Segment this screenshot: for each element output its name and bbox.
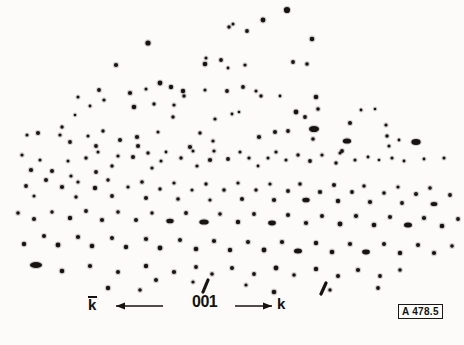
diffraction-spot	[443, 157, 446, 160]
diffraction-spot	[97, 88, 101, 92]
diffraction-spot	[238, 111, 241, 114]
diffraction-spot	[302, 198, 309, 203]
diffraction-spot	[267, 157, 270, 160]
diffraction-spot	[106, 286, 110, 290]
diffraction-spot	[292, 273, 296, 277]
diffraction-spot	[56, 243, 61, 248]
diffraction-spot	[255, 90, 258, 93]
diffraction-pattern-canvas	[0, 0, 464, 345]
diffraction-spot	[252, 212, 256, 216]
diffraction-spot	[336, 199, 340, 203]
diffraction-spot	[33, 195, 36, 198]
diffraction-spot	[348, 121, 352, 125]
diffraction-spot	[116, 210, 120, 214]
diffraction-spot	[165, 151, 168, 154]
diffraction-spot	[291, 60, 295, 64]
diffraction-spot	[36, 131, 40, 135]
diffraction-spot	[192, 150, 195, 153]
diffraction-spot	[69, 174, 72, 177]
diffraction-spot	[422, 216, 426, 220]
diffraction-spot	[320, 153, 323, 156]
diffraction-spot	[374, 108, 377, 111]
diffraction-spot	[398, 251, 402, 255]
diffraction-spot	[268, 182, 271, 185]
axis-label-k-negative-text: k	[88, 299, 97, 311]
diffraction-spot	[241, 85, 245, 89]
diffraction-spot	[310, 37, 315, 42]
diffraction-spot	[204, 182, 207, 185]
right-arrow	[235, 302, 272, 309]
diffraction-spot	[261, 18, 266, 23]
diffraction-spot	[212, 239, 216, 243]
diffraction-spot	[303, 115, 307, 119]
diffraction-spot	[376, 286, 380, 290]
diffraction-spot	[160, 160, 163, 163]
diffraction-spot	[314, 241, 318, 245]
diffraction-spot	[67, 160, 70, 163]
diffraction-spot	[232, 23, 235, 26]
diffraction-spot	[286, 189, 290, 193]
diffraction-spot	[272, 198, 276, 202]
diffraction-spot	[228, 248, 232, 252]
diffraction-spot	[423, 158, 426, 161]
diffraction-spot	[384, 123, 387, 126]
diffraction-spot	[398, 268, 402, 272]
diffraction-spot	[382, 242, 386, 246]
diffraction-spot	[378, 274, 382, 278]
diffraction-spot	[188, 145, 192, 149]
diffraction-spot	[145, 40, 150, 45]
diffraction-spot	[391, 157, 394, 160]
diffraction-spot	[285, 159, 288, 162]
diffraction-spot	[348, 242, 352, 246]
diffraction-spot	[239, 151, 242, 154]
diffraction-spot	[32, 217, 36, 221]
diffraction-spot	[118, 138, 122, 142]
diffraction-spot	[144, 237, 148, 241]
diffraction-spot	[135, 135, 139, 139]
diffraction-spot	[169, 85, 173, 89]
diffraction-spot	[158, 187, 161, 190]
diffraction-spot	[203, 62, 208, 67]
diffraction-spot	[76, 180, 79, 183]
diffraction-spot	[22, 242, 26, 246]
diffraction-spot	[400, 201, 404, 205]
diffraction-spot	[311, 137, 315, 141]
diffraction-spot	[211, 139, 214, 142]
diffraction-spot	[284, 7, 290, 13]
diffraction-spot	[144, 196, 148, 200]
diffraction-spot	[136, 144, 140, 148]
diffraction-spot	[110, 194, 114, 198]
diffraction-spot	[74, 114, 77, 117]
diffraction-spot	[191, 189, 194, 192]
diffraction-spot	[138, 288, 142, 292]
plate-number-badge: A 478.5	[398, 304, 443, 319]
diffraction-spot	[362, 250, 370, 255]
diffraction-spot	[150, 211, 153, 214]
diffraction-spot	[181, 89, 185, 93]
diffraction-spot	[150, 166, 153, 169]
diffraction-spot	[128, 91, 132, 95]
diffraction-spot	[219, 58, 223, 62]
diffraction-spot	[431, 202, 438, 206]
diffraction-spot	[254, 188, 257, 191]
diffraction-spot	[404, 223, 412, 228]
diffraction-spot	[158, 246, 163, 251]
diffraction-spot	[286, 213, 290, 217]
diffraction-spot	[294, 110, 299, 115]
diffraction-spot	[246, 240, 250, 244]
diffraction-spot	[198, 131, 201, 134]
diffraction-spot	[144, 264, 148, 268]
diffraction-spot	[296, 153, 299, 156]
diffraction-spot	[146, 151, 149, 154]
diffraction-spot	[456, 217, 460, 221]
diffraction-spot	[134, 218, 138, 222]
diffraction-spot	[257, 165, 260, 168]
diffraction-spot	[236, 220, 240, 224]
diffraction-spot	[243, 63, 246, 66]
diffraction-spot	[77, 96, 80, 99]
diffraction-spot	[218, 212, 222, 216]
diffraction-spot	[84, 209, 88, 213]
diffraction-spot	[145, 88, 148, 91]
diffraction-spot	[176, 197, 180, 201]
diffraction-spot	[432, 251, 436, 255]
